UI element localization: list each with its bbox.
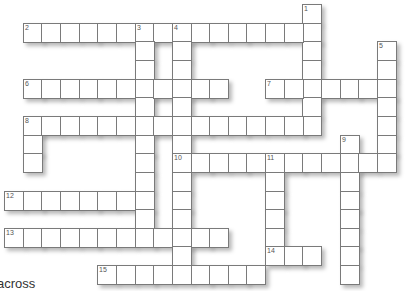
crossword-cell[interactable] [302, 60, 322, 80]
crossword-cell[interactable] [209, 116, 229, 136]
crossword-cell[interactable]: 10 [172, 153, 192, 173]
crossword-cell[interactable] [340, 153, 360, 173]
crossword-cell[interactable] [79, 116, 99, 136]
crossword-cell[interactable] [265, 191, 285, 211]
crossword-cell[interactable]: 4 [172, 23, 192, 43]
crossword-cell[interactable] [209, 153, 229, 173]
crossword-cell[interactable] [284, 246, 304, 266]
crossword-cell[interactable] [97, 228, 117, 248]
crossword-cell[interactable] [265, 116, 285, 136]
crossword-cell[interactable] [377, 60, 397, 80]
crossword-cell[interactable] [377, 79, 397, 99]
crossword-cell[interactable] [209, 265, 229, 285]
crossword-cell[interactable]: 6 [23, 79, 43, 99]
crossword-cell[interactable] [172, 265, 192, 285]
crossword-cell[interactable] [60, 228, 80, 248]
crossword-cell[interactable] [135, 153, 155, 173]
crossword-cell[interactable]: 13 [4, 228, 24, 248]
crossword-cell[interactable]: 1 [302, 4, 322, 24]
crossword-cell[interactable] [172, 172, 192, 192]
crossword-cell[interactable]: 12 [4, 191, 24, 211]
crossword-cell[interactable] [153, 23, 173, 43]
crossword-cell[interactable] [228, 265, 248, 285]
crossword-cell[interactable] [284, 153, 304, 173]
crossword-cell[interactable] [135, 116, 155, 136]
crossword-cell[interactable]: 8 [23, 116, 43, 136]
crossword-cell[interactable] [23, 153, 43, 173]
crossword-cell[interactable] [340, 246, 360, 266]
crossword-cell[interactable] [116, 191, 136, 211]
crossword-cell[interactable] [135, 265, 155, 285]
crossword-cell[interactable]: 5 [377, 41, 397, 61]
crossword-cell[interactable] [23, 191, 43, 211]
crossword-cell[interactable]: 15 [97, 265, 117, 285]
crossword-cell[interactable] [23, 135, 43, 155]
crossword-cell[interactable]: 9 [340, 135, 360, 155]
crossword-cell[interactable] [172, 79, 192, 99]
crossword-cell[interactable] [79, 79, 99, 99]
crossword-cell[interactable] [153, 228, 173, 248]
crossword-cell[interactable] [153, 116, 173, 136]
crossword-cell[interactable] [172, 135, 192, 155]
crossword-cell[interactable] [340, 191, 360, 211]
crossword-cell[interactable] [135, 60, 155, 80]
crossword-cell[interactable] [284, 79, 304, 99]
crossword-cell[interactable]: 7 [265, 79, 285, 99]
crossword-cell[interactable] [172, 228, 192, 248]
crossword-cell[interactable] [265, 228, 285, 248]
crossword-cell[interactable] [135, 79, 155, 99]
crossword-cell[interactable] [340, 228, 360, 248]
crossword-cell[interactable] [358, 153, 378, 173]
crossword-cell[interactable] [302, 153, 322, 173]
crossword-cell[interactable] [60, 79, 80, 99]
crossword-cell[interactable] [321, 153, 341, 173]
crossword-cell[interactable] [321, 79, 341, 99]
crossword-cell[interactable] [41, 23, 61, 43]
crossword-cell[interactable] [116, 79, 136, 99]
crossword-cell[interactable] [377, 153, 397, 173]
crossword-cell[interactable] [116, 116, 136, 136]
crossword-cell[interactable] [172, 209, 192, 229]
crossword-cell[interactable] [135, 172, 155, 192]
crossword-cell[interactable] [302, 97, 322, 117]
crossword-cell[interactable] [246, 265, 266, 285]
crossword-cell[interactable] [302, 41, 322, 61]
crossword-cell[interactable] [358, 79, 378, 99]
crossword-cell[interactable] [153, 79, 173, 99]
crossword-cell[interactable] [191, 116, 211, 136]
crossword-cell[interactable]: 14 [265, 246, 285, 266]
crossword-cell[interactable] [135, 209, 155, 229]
crossword-cell[interactable]: 11 [265, 153, 285, 173]
crossword-cell[interactable] [191, 265, 211, 285]
crossword-cell[interactable] [41, 191, 61, 211]
crossword-cell[interactable] [228, 23, 248, 43]
crossword-cell[interactable] [172, 97, 192, 117]
crossword-cell[interactable] [340, 265, 360, 285]
crossword-cell[interactable] [41, 79, 61, 99]
crossword-cell[interactable] [60, 116, 80, 136]
crossword-cell[interactable] [209, 79, 229, 99]
crossword-cell[interactable] [97, 79, 117, 99]
crossword-cell[interactable] [97, 116, 117, 136]
crossword-cell[interactable] [191, 228, 211, 248]
crossword-cell[interactable] [265, 209, 285, 229]
crossword-cell[interactable] [116, 228, 136, 248]
crossword-cell[interactable] [116, 23, 136, 43]
crossword-cell[interactable] [172, 116, 192, 136]
crossword-cell[interactable] [228, 116, 248, 136]
crossword-cell[interactable] [246, 23, 266, 43]
crossword-cell[interactable] [60, 23, 80, 43]
crossword-cell[interactable] [246, 153, 266, 173]
crossword-cell[interactable] [340, 79, 360, 99]
crossword-cell[interactable] [265, 23, 285, 43]
crossword-cell[interactable] [135, 228, 155, 248]
crossword-cell[interactable] [23, 228, 43, 248]
crossword-cell[interactable] [209, 228, 229, 248]
crossword-cell[interactable]: 3 [135, 23, 155, 43]
crossword-cell[interactable] [302, 23, 322, 43]
crossword-cell[interactable] [172, 60, 192, 80]
crossword-cell[interactable] [135, 191, 155, 211]
crossword-cell[interactable] [135, 135, 155, 155]
crossword-cell[interactable] [60, 191, 80, 211]
crossword-cell[interactable] [116, 265, 136, 285]
